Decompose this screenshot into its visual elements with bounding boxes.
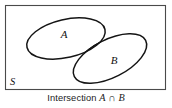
caption-right-operand: B: [118, 92, 124, 103]
caption-word: Intersection: [47, 93, 96, 103]
universal-set-label: S: [10, 76, 16, 87]
figure-caption: Intersection A ∩ B: [0, 92, 172, 103]
set-b-label: B: [111, 54, 118, 66]
venn-diagram-figure: A B S Intersection A ∩ B: [0, 0, 172, 108]
intersection-operator-symbol: ∩: [108, 92, 115, 103]
set-a-label: A: [60, 28, 68, 40]
caption-left-operand: A: [99, 92, 105, 103]
